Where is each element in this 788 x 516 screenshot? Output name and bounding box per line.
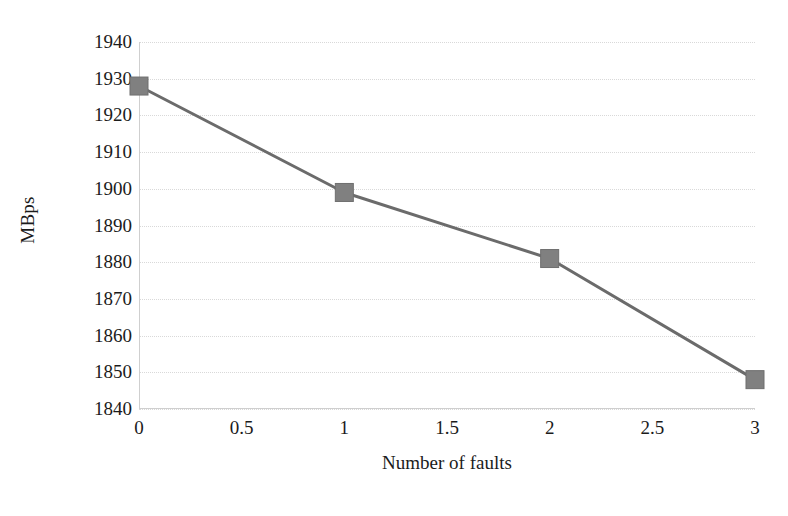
y-axis-tick-label: 1910 (60, 142, 132, 161)
y-axis-tick-label: 1880 (60, 252, 132, 271)
y-axis-tick-label: 1860 (60, 326, 132, 345)
x-axis-tick-label: 1 (340, 418, 350, 437)
x-axis-tick-label: 3 (750, 418, 760, 437)
y-axis-tick-label: 1940 (60, 32, 132, 51)
data-point-marker (335, 183, 353, 201)
y-axis-tick-label: 1920 (60, 105, 132, 124)
x-axis-tick-label: 0 (134, 418, 144, 437)
y-axis-tick-label: 1870 (60, 289, 132, 308)
x-axis-tick-label: 2 (545, 418, 555, 437)
data-point-marker (541, 250, 559, 268)
plot-area (139, 42, 755, 409)
y-axis-tick-labels: 1940193019201910190018901880187018601850… (56, 0, 132, 440)
y-axis-title: MBps (0, 0, 56, 440)
series-line (139, 86, 755, 380)
x-axis-tick-label: 0.5 (230, 418, 254, 437)
y-axis-tick-label: 1930 (60, 69, 132, 88)
x-axis-tick-label: 2.5 (640, 418, 664, 437)
x-axis-tick-label: 1.5 (435, 418, 459, 437)
x-axis-title-label: Number of faults (382, 452, 512, 473)
y-axis-tick-label: 1900 (60, 179, 132, 198)
data-series (139, 42, 755, 409)
y-axis-tick-label: 1850 (60, 362, 132, 381)
x-axis-title: Number of faults (139, 452, 755, 474)
y-axis-tick-label: 1890 (60, 216, 132, 235)
x-axis-tick-labels: 00.511.522.53 (139, 412, 755, 446)
line-chart: MBps 19401930192019101900189018801870186… (0, 0, 788, 516)
data-point-marker (130, 77, 148, 95)
y-axis-title-label: MBps (17, 196, 39, 243)
data-point-marker (746, 371, 764, 389)
gridline (139, 409, 755, 410)
y-axis-tick-label: 1840 (60, 399, 132, 418)
